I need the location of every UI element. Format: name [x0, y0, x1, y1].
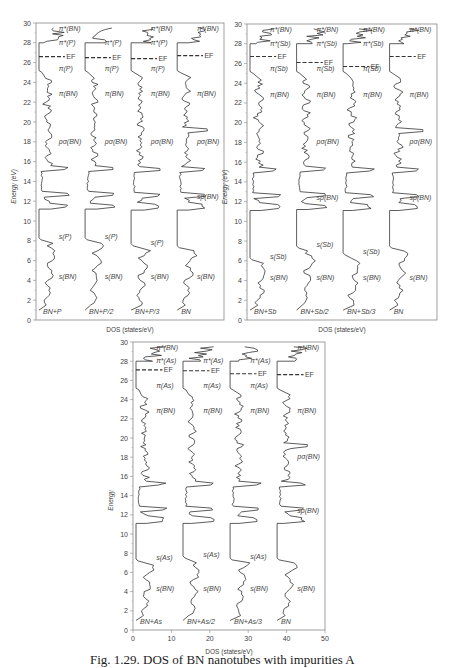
band-label: π*(BN) — [363, 26, 385, 34]
x-tick-label: 40 — [283, 635, 291, 642]
y-tick-label: 18 — [120, 454, 128, 461]
band-label: s(BN) — [156, 585, 174, 593]
y-tick-label: 16 — [23, 158, 31, 165]
band-label: π(Sb) — [317, 65, 335, 73]
y-tick-label: 26 — [120, 377, 128, 384]
y-tick-label: 2 — [27, 297, 31, 304]
band-label: s(P) — [59, 233, 72, 241]
y-tick-label: 18 — [23, 138, 31, 145]
band-label: π(BN) — [156, 407, 175, 415]
fermi-label: EF — [278, 53, 287, 60]
band-label: s(As) — [156, 554, 172, 562]
fermi-label: EF — [417, 53, 426, 60]
band-label: s(As) — [203, 551, 219, 559]
band-label: π*(Sb) — [270, 40, 291, 48]
x-tick-label: 30 — [244, 635, 252, 642]
y-tick-label: 8 — [238, 238, 242, 245]
band-label: π*(BN) — [270, 26, 292, 34]
band-label: s(As) — [250, 553, 266, 561]
y-tick-label: 16 — [234, 159, 242, 166]
y-tick-label: 18 — [234, 139, 242, 146]
band-label: π(BN) — [105, 90, 124, 98]
fermi-label: EF — [204, 52, 213, 59]
y-tick-label: 8 — [27, 237, 31, 244]
band-label: s(Sb) — [317, 241, 334, 249]
band-label: π(Sb) — [363, 65, 381, 73]
y-tick-label: 0 — [124, 627, 128, 634]
band-label: s(Sb) — [363, 248, 380, 256]
band-label: π(As) — [203, 382, 221, 390]
band-label: s(BN) — [105, 273, 123, 281]
y-tick-label: 14 — [234, 178, 242, 185]
y-tick-label: 30 — [120, 339, 128, 346]
y-tick-label: 0 — [27, 317, 31, 324]
band-label: π(BN) — [59, 90, 78, 98]
series-label: BN+Sb — [254, 308, 276, 315]
y-tick-label: 10 — [234, 218, 242, 225]
band-label: π(BN) — [270, 91, 289, 99]
band-label: π(P) — [59, 65, 73, 73]
band-label: π(P) — [105, 65, 119, 73]
band-label: s(BN) — [317, 274, 335, 282]
band-label: s(BN) — [203, 585, 221, 593]
y-tick-label: 2 — [124, 607, 128, 614]
y-tick-label: 2 — [238, 297, 242, 304]
y-tick-label: 6 — [238, 257, 242, 264]
y-tick-label: 10 — [23, 218, 31, 225]
band-label: s(BN) — [410, 274, 428, 282]
band-label: s(Sb) — [270, 253, 287, 261]
y-axis-label: Energy — [107, 489, 115, 510]
fermi-label: EF — [158, 55, 167, 62]
y-tick-label: 22 — [234, 99, 242, 106]
band-label: π(BN) — [410, 91, 429, 99]
x-axis-label: DOS (states/eV) — [318, 326, 365, 334]
y-tick-label: 24 — [23, 79, 31, 86]
y-tick-label: 12 — [23, 198, 31, 205]
band-label: sp(BN) — [317, 194, 339, 202]
x-tick-label: 50 — [321, 635, 329, 642]
band-label: π(BN) — [151, 90, 170, 98]
fermi-label: EF — [258, 370, 267, 377]
series-label: BN — [281, 618, 292, 625]
band-label: π(BN) — [363, 91, 382, 99]
y-tick-label: 14 — [120, 492, 128, 499]
band-label: π*(As) — [203, 357, 223, 365]
y-tick-label: 8 — [124, 550, 128, 557]
band-label: π*(BN) — [410, 26, 432, 34]
series-label: BN+As — [140, 618, 162, 625]
dos-curve-bn — [390, 29, 423, 310]
x-tick-label: 20 — [206, 635, 214, 642]
y-tick-label: 12 — [234, 198, 242, 205]
series-label: BN+P/2 — [89, 308, 113, 315]
y-tick-label: 28 — [120, 358, 128, 365]
fermi-label: EF — [66, 53, 75, 60]
y-tick-label: 30 — [234, 21, 242, 28]
y-tick-label: 16 — [120, 473, 128, 480]
y-tick-label: 20 — [23, 119, 31, 126]
y-tick-label: 12 — [120, 511, 128, 518]
band-label: π*(BN) — [197, 25, 219, 33]
series-label: BN+Sb/3 — [347, 308, 375, 315]
band-label: sp(BN) — [197, 193, 219, 201]
y-tick-label: 4 — [27, 277, 31, 284]
band-label: pσ(BN) — [58, 138, 82, 146]
band-label: π(BN) — [317, 91, 336, 99]
series-label: BN+As/2 — [187, 618, 215, 625]
band-label: π(Sb) — [270, 65, 288, 73]
band-label: π(As) — [156, 382, 174, 390]
x-tick-label: 0 — [131, 635, 135, 642]
series-label: BN+P — [43, 308, 62, 315]
band-label: π*(As) — [250, 357, 270, 365]
y-tick-label: 6 — [27, 257, 31, 264]
y-axis-label: Energy (eV) — [221, 169, 229, 204]
band-label: π*(BN) — [59, 25, 81, 33]
figure-caption: Fig. 1.29. DOS of BN nanotubes with impu… — [90, 652, 355, 668]
band-label: π(BN) — [203, 407, 222, 415]
band-label: pσ(BN) — [316, 138, 340, 146]
band-label: π*(As) — [156, 357, 176, 365]
band-label: s(BN) — [59, 273, 77, 281]
series-label: BN+As/3 — [234, 618, 262, 625]
y-tick-label: 24 — [120, 396, 128, 403]
y-tick-label: 26 — [234, 60, 242, 67]
x-tick-label: 10 — [168, 635, 176, 642]
